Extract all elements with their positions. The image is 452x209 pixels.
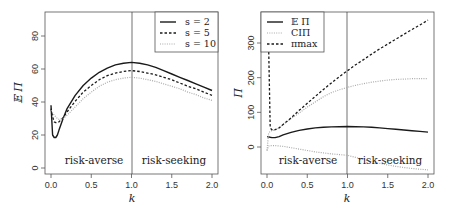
left-y-axis: 020406080 xyxy=(30,31,45,171)
x-tick-label: 2.0 xyxy=(422,180,435,190)
right-y-axis-label: Π xyxy=(232,88,245,99)
left-panel: 020406080 0.00.51.01.52.0 𝔼 Π k risk-ave… xyxy=(12,12,218,205)
right-panel: 0100200300 0.00.51.01.52.0 Π k risk-aver… xyxy=(232,12,434,205)
right-y-axis: 0100200300 xyxy=(246,35,261,149)
left-y-axis-label: 𝔼 Π xyxy=(12,82,25,104)
x-tick-label: 0.0 xyxy=(261,180,274,190)
right-region-averse: risk-averse xyxy=(279,154,338,166)
y-tick-label: 0 xyxy=(246,144,256,149)
x-tick-label: 0.0 xyxy=(45,180,58,190)
series-ci--line xyxy=(267,79,428,151)
right-legend: 𝔼 Π CIΠ πmax xyxy=(261,12,324,52)
legend-s5-label: s = 5 xyxy=(185,27,210,38)
left-legend: s = 2 s = 5 s = 10 xyxy=(155,12,218,52)
y-tick-label: 200 xyxy=(246,70,256,85)
legend-s10-label: s = 10 xyxy=(185,38,216,49)
y-tick-label: 80 xyxy=(30,31,40,41)
legend-s2-label: s = 2 xyxy=(185,16,210,27)
x-tick-label: 1.5 xyxy=(165,180,178,190)
legend-pimax-label: πmax xyxy=(291,38,318,49)
y-tick-label: 40 xyxy=(30,97,40,107)
chart-figure: 020406080 0.00.51.01.52.0 𝔼 Π k risk-ave… xyxy=(0,0,452,209)
legend-expected-label: 𝔼 Π xyxy=(291,16,310,27)
x-tick-label: 1.0 xyxy=(125,180,138,190)
left-x-axis: 0.00.51.01.52.0 xyxy=(45,174,219,190)
legend-ci-label: CIΠ xyxy=(291,27,310,38)
right-region-seeking: risk-seeking xyxy=(358,154,423,166)
y-tick-label: 20 xyxy=(30,130,40,140)
x-tick-label: 1.0 xyxy=(341,180,354,190)
left-curves xyxy=(51,62,212,137)
y-tick-label: 0 xyxy=(30,165,40,170)
y-tick-label: 300 xyxy=(246,35,256,50)
series-s-2-line xyxy=(51,62,212,137)
y-tick-label: 100 xyxy=(246,105,256,120)
left-region-seeking: risk-seeking xyxy=(142,154,207,166)
x-tick-label: 2.0 xyxy=(206,180,219,190)
x-tick-label: 0.5 xyxy=(85,180,98,190)
y-tick-label: 60 xyxy=(30,64,40,74)
series-e--line xyxy=(267,127,428,138)
right-x-axis: 0.00.51.01.52.0 xyxy=(261,174,435,190)
series-s-10-line xyxy=(51,77,212,119)
right-x-axis-label: k xyxy=(344,192,351,205)
x-tick-label: 1.5 xyxy=(381,180,394,190)
left-region-averse: risk-averse xyxy=(65,154,124,166)
x-tick-label: 0.5 xyxy=(301,180,314,190)
left-x-axis-label: k xyxy=(129,192,136,205)
